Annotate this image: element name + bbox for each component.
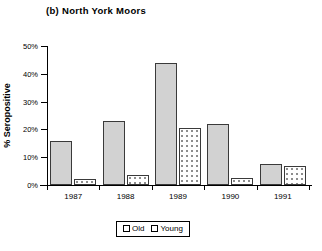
- bar-old-1988: [103, 121, 125, 185]
- x-axis-tick: [99, 186, 100, 190]
- legend-swatch-young-icon: [151, 225, 158, 232]
- legend-entry-young: Young: [151, 224, 182, 233]
- x-axis-tick: [257, 186, 258, 190]
- x-axis-label-1987: 1987: [64, 192, 82, 201]
- y-axis-tick-label: 30%: [23, 97, 38, 106]
- chart-title: (b) North York Moors: [46, 5, 146, 16]
- y-axis-tick-label: 40%: [23, 69, 38, 78]
- x-axis-label-1989: 1989: [169, 192, 187, 201]
- bar-young-1987: [74, 179, 96, 185]
- y-axis-tick-label: 50%: [23, 42, 38, 51]
- plot-area: [47, 46, 309, 185]
- chart-legend: Old Young: [116, 221, 190, 237]
- y-axis-tick-label: 0%: [27, 181, 38, 190]
- bar-old-1991: [260, 164, 282, 185]
- x-axis-tick: [47, 186, 48, 190]
- x-axis-label-1990: 1990: [221, 192, 239, 201]
- bar-old-1989: [155, 63, 177, 185]
- legend-label-old: Old: [132, 224, 144, 233]
- bar-old-1990: [207, 124, 229, 185]
- y-axis-tick-label: 10%: [23, 153, 38, 162]
- bar-young-1988: [127, 175, 149, 185]
- x-axis-label-1988: 1988: [117, 192, 135, 201]
- x-axis-tick: [309, 186, 310, 190]
- y-axis-title: % Seropositive: [2, 46, 14, 185]
- bar-young-1990: [231, 178, 253, 185]
- legend-entry-old: Old: [123, 224, 144, 233]
- legend-label-young: Young: [160, 224, 182, 233]
- legend-swatch-old-icon: [123, 225, 130, 232]
- x-axis-tick: [152, 186, 153, 190]
- chart-figure: (b) North York Moors % Seropositive 0%10…: [0, 0, 322, 251]
- x-axis-line: [40, 185, 312, 186]
- bar-young-1991: [284, 166, 306, 185]
- bar-young-1989: [179, 128, 201, 185]
- x-axis-label-1991: 1991: [274, 192, 292, 201]
- x-axis-tick: [204, 186, 205, 190]
- bar-old-1987: [50, 141, 72, 185]
- y-axis-tick-label: 20%: [23, 125, 38, 134]
